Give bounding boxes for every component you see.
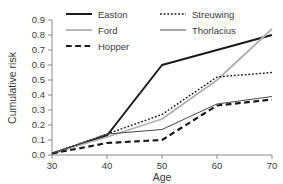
y-tick-label: 0.4: [32, 89, 45, 100]
x-tick-label: 40: [102, 160, 113, 171]
x-axis-title: Age: [153, 171, 172, 183]
x-tick-label: 30: [47, 160, 58, 171]
legend-label-easton: Easton: [98, 9, 128, 20]
legend-label-hopper: Hopper: [98, 41, 129, 52]
y-tick-label: 0.3: [32, 104, 45, 115]
legend-label-ford: Ford: [98, 25, 118, 36]
legend-label-streuwing: Streuwing: [192, 9, 234, 20]
y-tick-label: 0.8: [32, 29, 45, 40]
y-tick-label: 0.7: [32, 44, 45, 55]
x-tick-label: 50: [157, 160, 168, 171]
x-tick-label: 70: [267, 160, 278, 171]
chart-canvas: 0.0 0.1 0.2 0.3 0.4 0.5 0.6 0.7 0.8 0.9 …: [0, 0, 283, 184]
y-tick-label: 0.5: [32, 74, 45, 85]
y-axis-title: Cumulative risk: [6, 51, 18, 124]
y-tick-label: 0.2: [32, 119, 45, 130]
legend-label-thorlacius: Thorlacius: [192, 25, 236, 36]
y-tick-label: 0.9: [32, 14, 45, 25]
x-tick-label: 60: [212, 160, 223, 171]
y-tick-label: 0.1: [32, 134, 45, 145]
cumulative-risk-line-chart: 0.0 0.1 0.2 0.3 0.4 0.5 0.6 0.7 0.8 0.9 …: [0, 0, 283, 184]
y-tick-label: 0.6: [32, 59, 45, 70]
y-tick-label: 0.0: [32, 149, 45, 160]
